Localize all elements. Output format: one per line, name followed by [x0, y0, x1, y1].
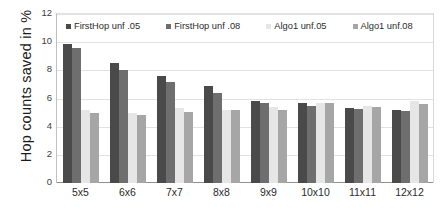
- bar-8x8-series-2[interactable]: [213, 93, 222, 183]
- bar-7x7-series-2[interactable]: [166, 82, 175, 183]
- bar-11x11-series-4[interactable]: [372, 107, 381, 183]
- bar-10x10-series-1[interactable]: [298, 103, 307, 183]
- x-tick-label-11x11: 11x11: [339, 186, 386, 198]
- legend-swatch-icon-1: [66, 24, 71, 29]
- bar-7x7-series-1[interactable]: [157, 76, 166, 183]
- x-tick-label-6x6: 6x6: [104, 186, 151, 198]
- y-tick-label-10: 10: [26, 36, 52, 46]
- bar-7x7-series-4[interactable]: [184, 112, 193, 183]
- x-axis-tick-labels: 5x56x67x78x89x910x1011x1112x12: [57, 186, 433, 198]
- bar-10x10-series-3[interactable]: [316, 103, 325, 183]
- bar-5x5-series-2[interactable]: [72, 48, 81, 183]
- bar-group-11x11: [339, 14, 386, 183]
- y-axis-tick-labels: 024681012: [26, 13, 52, 183]
- legend-item-1[interactable]: FirstHop unf .05: [66, 21, 140, 31]
- bar-group-8x8: [198, 14, 245, 183]
- bar-6x6-series-2[interactable]: [119, 70, 128, 183]
- legend-item-4[interactable]: Algo1 unf.08: [353, 21, 413, 31]
- bar-6x6-series-4[interactable]: [137, 115, 146, 183]
- bar-groups: [57, 14, 433, 183]
- bar-11x11-series-1[interactable]: [345, 108, 354, 183]
- x-tick-label-7x7: 7x7: [151, 186, 198, 198]
- bar-group-7x7: [151, 14, 198, 183]
- bar-group-10x10: [292, 14, 339, 183]
- bar-group-12x12: [386, 14, 433, 183]
- legend-label-3: Algo1 unf.05: [274, 21, 326, 31]
- bar-8x8-series-3[interactable]: [222, 110, 231, 183]
- y-tick-label-12: 12: [26, 8, 52, 18]
- legend-swatch-icon-3: [266, 24, 271, 29]
- bar-7x7-series-3[interactable]: [175, 108, 184, 183]
- bar-10x10-series-2[interactable]: [307, 106, 316, 183]
- legend-item-3[interactable]: Algo1 unf.05: [266, 21, 326, 31]
- legend-item-2[interactable]: FirstHop unf .08: [166, 21, 240, 31]
- x-tick-label-12x12: 12x12: [386, 186, 433, 198]
- x-tick-label-8x8: 8x8: [198, 186, 245, 198]
- bar-12x12-series-2[interactable]: [401, 111, 410, 183]
- bar-8x8-series-4[interactable]: [231, 110, 240, 183]
- bar-chart-figure: Hop counts saved in % 024681012 5x56x67x…: [0, 0, 444, 218]
- y-tick-label-8: 8: [26, 65, 52, 75]
- legend-label-4: Algo1 unf.08: [361, 21, 413, 31]
- bar-6x6-series-3[interactable]: [128, 113, 137, 183]
- x-tick-label-9x9: 9x9: [245, 186, 292, 198]
- x-tick-label-10x10: 10x10: [292, 186, 339, 198]
- bar-9x9-series-4[interactable]: [278, 110, 287, 183]
- bar-6x6-series-1[interactable]: [110, 63, 119, 183]
- legend-label-2: FirstHop unf .08: [174, 21, 240, 31]
- bar-group-9x9: [245, 14, 292, 183]
- y-tick-label-6: 6: [26, 93, 52, 103]
- bar-5x5-series-3[interactable]: [81, 110, 90, 183]
- bar-group-5x5: [57, 14, 104, 183]
- bar-10x10-series-4[interactable]: [325, 103, 334, 183]
- bar-group-6x6: [104, 14, 151, 183]
- y-tick-label-4: 4: [26, 121, 52, 131]
- bar-9x9-series-3[interactable]: [269, 107, 278, 183]
- legend-label-1: FirstHop unf .05: [74, 21, 140, 31]
- chart-legend: FirstHop unf .05FirstHop unf .08Algo1 un…: [66, 21, 413, 31]
- x-tick-label-5x5: 5x5: [57, 186, 104, 198]
- y-tick-label-0: 0: [26, 177, 52, 187]
- legend-swatch-icon-4: [353, 24, 358, 29]
- bar-5x5-series-4[interactable]: [90, 113, 99, 183]
- bar-5x5-series-1[interactable]: [63, 44, 72, 183]
- bar-11x11-series-2[interactable]: [354, 109, 363, 183]
- bar-12x12-series-4[interactable]: [419, 104, 428, 183]
- y-tick-label-2: 2: [26, 149, 52, 159]
- bar-9x9-series-2[interactable]: [260, 103, 269, 183]
- bar-8x8-series-1[interactable]: [204, 86, 213, 183]
- bar-12x12-series-3[interactable]: [410, 101, 419, 183]
- legend-swatch-icon-2: [166, 24, 171, 29]
- bar-12x12-series-1[interactable]: [392, 110, 401, 183]
- bar-11x11-series-3[interactable]: [363, 106, 372, 183]
- bar-9x9-series-1[interactable]: [251, 101, 260, 183]
